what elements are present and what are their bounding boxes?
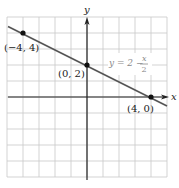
label-point-neg4-4: (−4, 4) xyxy=(4,42,39,53)
graph-svg: x y (−4, 4) (0, 2) (4, 0) y = 2 − x 2 xyxy=(0,0,179,188)
equation-label: y = 2 − x 2 xyxy=(108,53,152,75)
point-4-0 xyxy=(148,94,153,99)
point-0-2 xyxy=(84,62,89,67)
x-axis-label: x xyxy=(171,91,177,102)
label-point-4-0: (4, 0) xyxy=(127,103,154,114)
point-neg4-4 xyxy=(20,30,25,35)
equation-lhs: y = 2 − xyxy=(108,58,143,68)
equation-numerator: x xyxy=(142,54,147,63)
label-point-0-2: (0, 2) xyxy=(58,68,85,79)
y-axis-label: y xyxy=(83,4,90,15)
point-labels: (−4, 4) (0, 2) (4, 0) xyxy=(4,42,154,114)
equation-denominator: 2 xyxy=(142,65,147,74)
coordinate-graph: x y (−4, 4) (0, 2) (4, 0) y = 2 − x 2 xyxy=(0,0,179,188)
y-axis: y xyxy=(83,4,90,180)
